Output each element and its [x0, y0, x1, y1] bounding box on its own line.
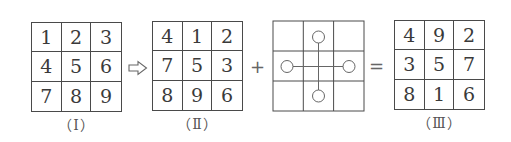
grid-i-cell: 8 [62, 82, 92, 111]
grid-ii-cell: 9 [183, 81, 213, 110]
grid-iii-cell: 1 [425, 80, 455, 109]
grid-ii-cell: 7 [153, 51, 183, 80]
circle-bottom [313, 90, 325, 102]
grid-i-label: （Ⅰ） [31, 114, 122, 134]
grid-ii: 4 1 2 7 5 3 8 9 6 [152, 21, 243, 111]
swap-pattern-grid [272, 20, 366, 112]
grid-i-cell: 3 [91, 23, 121, 52]
grid-iii: 4 9 2 3 5 7 8 1 6 [394, 20, 485, 110]
grid-ii-cell: 3 [212, 51, 242, 80]
grid-iii-cell: 9 [425, 21, 455, 50]
grid-i-cell: 9 [91, 82, 121, 111]
grid-iii-cell: 2 [454, 21, 484, 50]
grid-iii-cell: 3 [395, 50, 425, 79]
grid-ii-cell: 5 [183, 51, 213, 80]
circle-top [313, 31, 325, 43]
circle-left [281, 61, 293, 73]
grid-ii-label: （Ⅱ） [152, 113, 243, 133]
grid-ii-cell: 2 [212, 22, 242, 51]
circle-right [343, 61, 355, 73]
grid-ii-cell: 4 [153, 22, 183, 51]
grid-iii-cell: 8 [395, 80, 425, 109]
grid-ii-cell: 6 [212, 81, 242, 110]
grid-iii-cell: 6 [454, 80, 484, 109]
grid-iii-cell: 5 [425, 50, 455, 79]
grid-i-cell: 7 [32, 82, 62, 111]
grid-i-cell: 5 [62, 52, 92, 81]
grid-i-cell: 1 [32, 23, 62, 52]
grid-ii-cell: 1 [183, 22, 213, 51]
plus-sign: + [250, 56, 265, 77]
hollow-right-arrow-icon [128, 60, 148, 76]
equals-sign: = [369, 55, 384, 76]
grid-i: 1 2 3 4 5 6 7 8 9 [31, 22, 122, 112]
grid-ii-cell: 8 [153, 81, 183, 110]
grid-iii-cell: 4 [395, 21, 425, 50]
grid-i-cell: 4 [32, 52, 62, 81]
grid-iii-cell: 7 [454, 50, 484, 79]
grid-i-cell: 2 [62, 23, 92, 52]
grid-iii-label: （Ⅲ） [394, 112, 485, 132]
grid-i-cell: 6 [91, 52, 121, 81]
